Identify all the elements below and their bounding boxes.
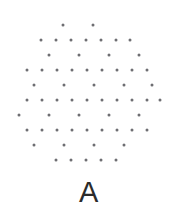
lattice-dot — [123, 144, 126, 147]
lattice-dot — [85, 159, 88, 162]
lattice-dot — [131, 99, 134, 102]
lattice-dot — [56, 99, 59, 102]
lattice-dot — [92, 24, 95, 27]
lattice-dot — [71, 129, 74, 132]
lattice-dot — [129, 39, 132, 42]
figure-panel: A — [0, 0, 178, 219]
lattice-dot — [40, 39, 43, 42]
lattice-dot — [41, 69, 44, 72]
lattice-dot — [138, 54, 141, 57]
lattice-dot — [101, 69, 104, 72]
lattice-dot — [85, 39, 88, 42]
lattice-dot — [63, 144, 66, 147]
dot-lattice-plot — [0, 0, 178, 170]
lattice-dot — [86, 69, 89, 72]
lattice-dot — [55, 159, 58, 162]
lattice-dot — [101, 99, 104, 102]
lattice-dot — [63, 84, 66, 87]
lattice-dot — [86, 99, 89, 102]
lattice-dot — [78, 114, 81, 117]
lattice-dot — [108, 54, 111, 57]
lattice-dot — [116, 129, 119, 132]
lattice-dot — [123, 84, 126, 87]
lattice-dot — [70, 39, 73, 42]
lattice-dot — [93, 84, 96, 87]
lattice-dot — [70, 159, 73, 162]
lattice-dot — [115, 39, 118, 42]
lattice-dot — [108, 114, 111, 117]
lattice-dot — [33, 84, 36, 87]
lattice-dot — [100, 39, 103, 42]
lattice-dot — [86, 129, 89, 132]
lattice-dot — [56, 69, 59, 72]
lattice-dot — [41, 99, 44, 102]
lattice-dot — [18, 114, 21, 117]
lattice-dot — [116, 99, 119, 102]
lattice-dot — [116, 69, 119, 72]
lattice-dot — [55, 39, 58, 42]
lattice-dot — [115, 159, 118, 162]
lattice-dot — [71, 99, 74, 102]
lattice-dot — [26, 129, 29, 132]
lattice-dot — [26, 69, 29, 72]
lattice-dot — [48, 114, 51, 117]
lattice-dot — [131, 69, 134, 72]
lattice-dot — [146, 99, 149, 102]
lattice-dot — [48, 54, 51, 57]
lattice-dot — [78, 54, 81, 57]
lattice-dot — [56, 129, 59, 132]
lattice-dot — [131, 129, 134, 132]
lattice-dot — [33, 144, 36, 147]
lattice-dot — [41, 129, 44, 132]
lattice-dot — [93, 144, 96, 147]
lattice-dot — [151, 84, 154, 87]
lattice-dot — [100, 159, 103, 162]
lattice-dot — [62, 24, 65, 27]
lattice-dot — [26, 99, 29, 102]
lattice-dot — [101, 129, 104, 132]
lattice-dot — [138, 114, 141, 117]
lattice-dot — [146, 129, 149, 132]
lattice-dot — [159, 99, 162, 102]
panel-label: A — [0, 174, 178, 210]
lattice-dot — [146, 69, 149, 72]
lattice-dot — [71, 69, 74, 72]
